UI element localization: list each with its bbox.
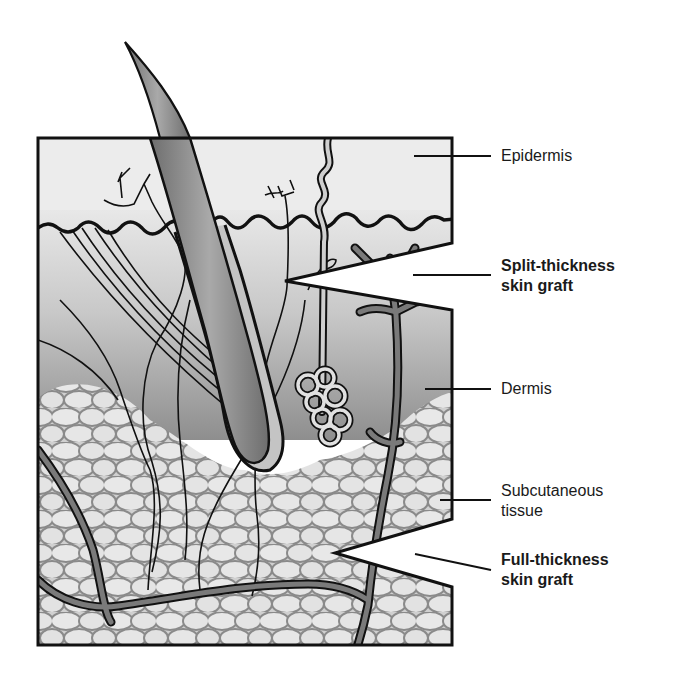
label-epidermis: Epidermis (501, 146, 572, 166)
label-split-thickness-skin-graft: Split-thickness skin graft (501, 256, 615, 296)
label-full-thickness-skin-graft: Full-thickness skin graft (501, 550, 609, 590)
hair-shaft-tip (125, 42, 190, 138)
label-subcutaneous-tissue: Subcutaneous tissue (501, 481, 603, 521)
label-dermis: Dermis (501, 379, 552, 399)
skin-layers (38, 138, 466, 657)
full-thickness-leader (415, 554, 491, 570)
